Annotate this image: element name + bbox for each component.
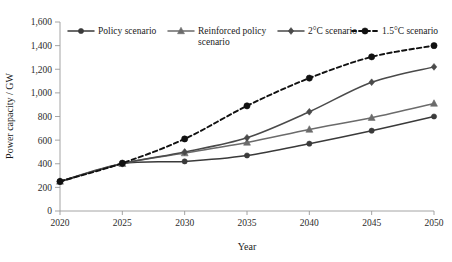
data-point-circle-icon [431, 114, 436, 119]
legend-label: Policy scenario [98, 26, 157, 36]
x-tick-label: 2040 [300, 218, 319, 228]
data-point-diamond-icon [244, 134, 250, 141]
y-tick-label: 200 [38, 183, 53, 193]
x-tick-label: 2020 [51, 218, 70, 228]
line-chart: 02004006008001,0001,2001,4001,600 202020… [0, 0, 452, 262]
x-tick-label: 2025 [113, 218, 132, 228]
x-tick-label: 2050 [425, 218, 444, 228]
y-tick-label: 1,400 [31, 41, 53, 51]
y-tick-label: 800 [38, 112, 53, 122]
data-point-diamond-icon [369, 79, 375, 86]
legend-item-2[interactable]: Reinforced policyscenario [168, 26, 267, 47]
y-axis-title: Power capacity / GW [4, 73, 15, 159]
data-point-circle-icon [119, 160, 125, 166]
data-point-circle-icon [182, 159, 187, 164]
data-point-diamond-icon [431, 64, 437, 71]
data-point-circle-icon [244, 103, 250, 109]
legend-label: Reinforced policy [198, 26, 267, 36]
y-tick-label: 600 [38, 136, 53, 146]
y-tick-label: 400 [38, 159, 53, 169]
y-axis-ticks: 02004006008001,0001,2001,4001,600 [31, 17, 60, 216]
data-point-circle-icon [431, 43, 437, 49]
data-point-circle-icon [182, 136, 188, 142]
data-point-circle-icon [244, 153, 249, 158]
data-series-group [57, 43, 438, 185]
series-line [60, 46, 434, 182]
chart-legend: Policy scenarioReinforced policyscenario… [68, 26, 438, 47]
data-point-circle-icon [362, 28, 368, 34]
data-point-circle-icon [306, 75, 312, 81]
data-point-triangle-icon [431, 100, 438, 106]
legend-label: 2°C scenario [308, 26, 357, 36]
legend-item-4[interactable]: 1.5°C scenario [352, 26, 438, 36]
chart-container: 02004006008001,0001,2001,4001,600 202020… [0, 0, 452, 262]
series-2 [57, 100, 438, 184]
data-point-diamond-icon [307, 108, 313, 115]
x-axis-ticks: 2020202520302035204020452050 [51, 211, 444, 228]
y-tick-label: 1,200 [31, 65, 53, 75]
legend-item-3[interactable]: 2°C scenario [278, 26, 357, 36]
legend-item-1[interactable]: Policy scenario [68, 26, 157, 36]
y-tick-label: 1,000 [31, 88, 53, 98]
legend-label-cont: scenario [198, 37, 230, 47]
x-tick-label: 2030 [175, 218, 194, 228]
data-point-circle-icon [57, 178, 63, 184]
y-tick-label: 1,600 [31, 17, 53, 27]
series-4 [57, 43, 437, 185]
data-point-diamond-icon [288, 28, 294, 35]
legend-label: 1.5°C scenario [382, 26, 438, 36]
data-point-circle-icon [307, 141, 312, 146]
y-tick-label: 0 [47, 206, 52, 216]
series-1 [57, 114, 436, 184]
series-line [60, 117, 434, 182]
x-tick-label: 2035 [238, 218, 257, 228]
data-point-circle-icon [369, 128, 374, 133]
x-tick-label: 2045 [362, 218, 381, 228]
x-axis-title: Year [238, 241, 257, 252]
data-point-circle-icon [369, 54, 375, 60]
data-point-circle-icon [78, 28, 83, 33]
